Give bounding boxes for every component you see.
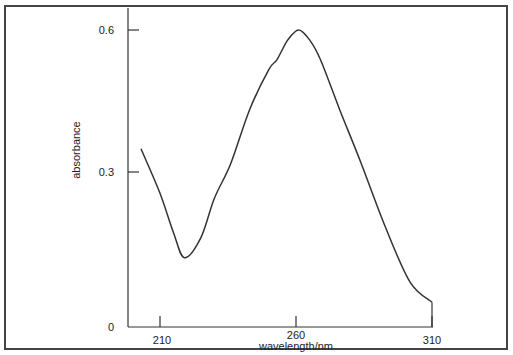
x-tick-label-310: 310 — [423, 334, 441, 346]
chart: 0.6 0.3 0 210 260 310 wavelength/nm abso… — [0, 0, 513, 355]
y-tick-label-0.3: 0.3 — [99, 166, 114, 178]
y-tick-label-0: 0 — [108, 321, 114, 333]
x-axis-label: wavelength/nm — [258, 340, 333, 352]
absorbance-curve — [141, 30, 432, 302]
y-axis-label: absorbance — [70, 121, 82, 179]
x-tick-label-210: 210 — [153, 334, 171, 346]
y-tick-label-0.6: 0.6 — [99, 24, 114, 36]
